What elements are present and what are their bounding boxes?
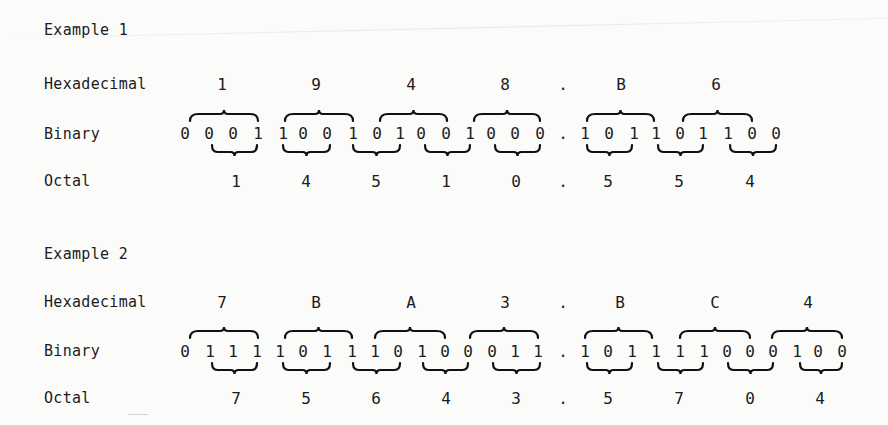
under-brace-icon <box>353 144 400 156</box>
binary-digit: 0 <box>175 343 195 361</box>
binary-digit: 1 <box>317 343 337 361</box>
radix-point: . <box>553 343 573 361</box>
binary-digit: 1 <box>343 125 363 143</box>
binary-digit: 1 <box>248 125 268 143</box>
over-brace-icon <box>585 327 652 339</box>
binary-digit: 0 <box>766 125 786 143</box>
over-brace-icon <box>587 110 654 122</box>
octal-digit: 5 <box>296 390 316 408</box>
example-title: Example 1 <box>44 21 128 39</box>
under-brace-icon <box>423 362 468 374</box>
octal-digit: 3 <box>506 390 526 408</box>
binary-digit: 1 <box>223 343 243 361</box>
binary-digit: 0 <box>175 125 195 143</box>
over-brace-icon <box>683 110 752 122</box>
octal-digit: 0 <box>740 390 760 408</box>
octal-digit: 5 <box>598 173 618 191</box>
radix-point: . <box>553 125 573 143</box>
octal-digit: 5 <box>598 390 618 408</box>
binary-digit: 0 <box>293 125 313 143</box>
binary-digit: 0 <box>388 343 408 361</box>
over-brace-icon <box>190 327 258 339</box>
binary-digit: 1 <box>646 343 666 361</box>
octal-digit: 5 <box>366 173 386 191</box>
binary-digit: 1 <box>528 343 548 361</box>
binary-digit: 0 <box>436 125 456 143</box>
binary-digit: 0 <box>763 343 783 361</box>
binary-digit: 0 <box>481 125 501 143</box>
binary-digit: 0 <box>458 343 478 361</box>
binary-digit: 0 <box>530 125 550 143</box>
binary-digit: 0 <box>317 125 337 143</box>
under-brace-icon <box>728 362 773 374</box>
over-brace-icon <box>380 110 447 122</box>
octal-digit: 4 <box>740 173 760 191</box>
octal-digit: 7 <box>669 390 689 408</box>
octal-digit: 1 <box>226 173 246 191</box>
over-brace-icon <box>190 110 258 122</box>
under-brace-icon <box>425 144 470 156</box>
binary-digit: 1 <box>365 343 385 361</box>
binary-digit: 1 <box>646 125 666 143</box>
hex-digit: 4 <box>798 294 818 312</box>
binary-digit: 1 <box>787 343 807 361</box>
row-label-hex: Hexadecimal <box>44 75 147 93</box>
binary-digit: 1 <box>247 343 267 361</box>
hex-digit: C <box>705 294 725 312</box>
over-brace-icon <box>375 327 445 339</box>
binary-digit: 1 <box>505 343 525 361</box>
binary-digit: 1 <box>460 125 480 143</box>
under-brace-icon <box>212 144 257 156</box>
row-label-hex: Hexadecimal <box>44 293 147 311</box>
radix-point: . <box>553 76 573 94</box>
binary-digit: 0 <box>742 125 762 143</box>
under-brace-icon <box>493 362 540 374</box>
hex-digit: B <box>306 294 326 312</box>
under-brace-icon <box>587 362 632 374</box>
octal-digit: 4 <box>436 390 456 408</box>
hex-digit: 6 <box>706 76 726 94</box>
hex-digit: 4 <box>401 76 421 94</box>
binary-digit: 0 <box>223 125 243 143</box>
radix-point: . <box>553 173 573 191</box>
radix-point: . <box>553 294 573 312</box>
over-brace-icon <box>470 327 538 339</box>
binary-digit: 0 <box>832 343 852 361</box>
over-brace-icon <box>285 110 353 122</box>
hex-digit: B <box>610 294 630 312</box>
octal-digit: 1 <box>436 173 456 191</box>
binary-digit: 1 <box>412 343 432 361</box>
under-brace-icon <box>730 144 776 156</box>
over-brace-icon <box>772 327 842 339</box>
hex-digit: 9 <box>306 76 326 94</box>
binary-digit: 1 <box>273 125 293 143</box>
row-label-binary: Binary <box>44 125 100 143</box>
binary-digit: 1 <box>718 125 738 143</box>
binary-digit: 1 <box>270 343 290 361</box>
binary-digit: 1 <box>622 343 642 361</box>
binary-digit: 1 <box>693 125 713 143</box>
row-label-octal: Octal <box>44 389 91 407</box>
over-brace-icon <box>474 110 540 122</box>
row-label-binary: Binary <box>44 342 100 360</box>
binary-digit: 0 <box>670 125 690 143</box>
radix-point: . <box>553 390 573 408</box>
hex-digit: 7 <box>212 294 232 312</box>
hex-digit: 3 <box>495 294 515 312</box>
binary-digit: 0 <box>293 343 313 361</box>
binary-digit: 0 <box>740 343 760 361</box>
hex-digit: B <box>611 76 631 94</box>
binary-digit: 1 <box>694 343 714 361</box>
binary-digit: 0 <box>367 125 387 143</box>
octal-digit: 4 <box>296 173 316 191</box>
paper-smudge <box>128 414 148 415</box>
under-brace-icon <box>283 144 330 156</box>
octal-digit: 5 <box>669 173 689 191</box>
binary-digit: 0 <box>435 343 455 361</box>
binary-digit: 1 <box>575 343 595 361</box>
hex-digit: 1 <box>212 76 232 94</box>
under-brace-icon <box>495 144 540 156</box>
binary-digit: 1 <box>670 343 690 361</box>
under-brace-icon <box>800 362 842 374</box>
row-label-octal: Octal <box>44 172 91 190</box>
